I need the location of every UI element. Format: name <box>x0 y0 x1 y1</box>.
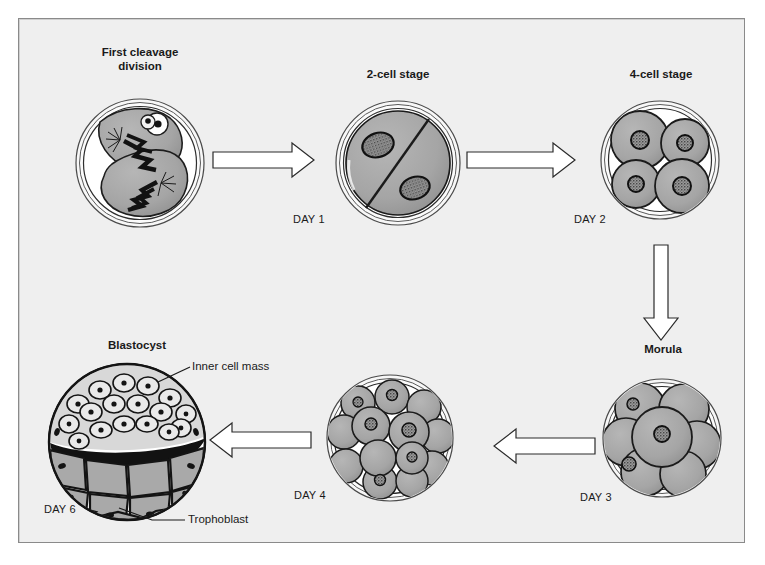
embryo-development-figure: First cleavage division 2-cell stage DAY… <box>0 0 765 565</box>
annotation-trophoblast: Trophoblast <box>188 513 248 527</box>
stage-2-cell <box>336 101 460 225</box>
day-label-day4: DAY 4 <box>294 489 326 502</box>
day-label-morula: DAY 3 <box>580 491 612 504</box>
first-cleavage-title-line1: First cleavage <box>102 46 179 58</box>
arrow-morula-to-day4 <box>494 429 595 463</box>
arrow-day4-to-blastocyst <box>210 423 311 457</box>
arrow-first-cleavage-to-2cell <box>213 143 314 177</box>
stage-day4-16cell <box>327 375 455 501</box>
day-label-2-cell: DAY 1 <box>293 213 325 226</box>
day-label-4-cell: DAY 2 <box>574 213 606 226</box>
figure-canvas <box>0 0 765 565</box>
stage-title-blastocyst: Blastocyst <box>82 339 192 353</box>
stage-morula <box>602 379 721 497</box>
stage-4-cell <box>601 101 719 219</box>
stage-blastocyst <box>49 364 206 520</box>
arrow-4cell-to-morula <box>644 245 678 340</box>
day-label-blastocyst: DAY 6 <box>44 503 76 516</box>
first-cleavage-title-line2: division <box>118 60 161 72</box>
stage-title-2-cell: 2-cell stage <box>338 68 458 82</box>
annotation-inner-cell-mass: Inner cell mass <box>192 360 269 374</box>
stage-title-first-cleavage: First cleavage division <box>81 46 199 73</box>
arrow-2cell-to-4cell <box>467 143 575 177</box>
stage-title-4-cell: 4-cell stage <box>602 68 720 82</box>
stage-title-morula: Morula <box>605 343 721 357</box>
stage-first-cleavage-division <box>76 99 204 227</box>
